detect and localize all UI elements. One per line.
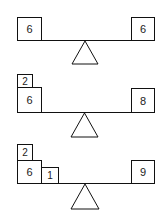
left-weight-box-top: 2	[17, 74, 33, 88]
fulcrum-triangle-icon	[70, 184, 100, 210]
right-weight-box: 9	[131, 160, 155, 184]
fulcrum-triangle-icon	[70, 113, 99, 138]
fulcrum-triangle-icon	[71, 41, 99, 65]
right-weight-box: 6	[131, 17, 155, 41]
left-weight-box: 6	[17, 87, 42, 113]
left-weight-box-top: 2	[17, 144, 33, 161]
left-weight-box: 6	[17, 160, 42, 184]
right-weight-box: 8	[131, 88, 155, 113]
left-weight-box-small: 1	[41, 167, 59, 184]
left-weight-box: 6	[17, 17, 42, 41]
